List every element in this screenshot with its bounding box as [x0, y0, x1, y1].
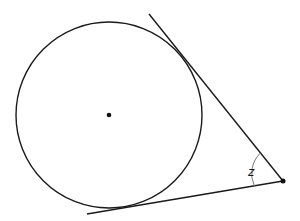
external-point: [281, 179, 286, 184]
lower-tangent-line: [87, 181, 283, 214]
geometry-diagram: z: [0, 0, 300, 221]
angle-label: z: [247, 165, 255, 179]
upper-tangent-line: [149, 14, 283, 181]
center-point: [107, 113, 112, 118]
